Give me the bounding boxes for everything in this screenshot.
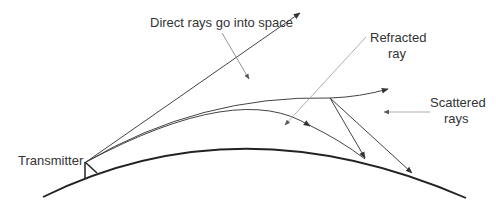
earth-surface <box>43 149 466 198</box>
refracted-label-line2: ray <box>388 46 407 61</box>
refracted-ray-upper <box>86 89 388 162</box>
scattered-label-line1: Scattered <box>430 95 486 110</box>
refracted-ray-lower <box>86 109 310 162</box>
scattered-ray-2 <box>330 98 412 173</box>
direct-ray <box>86 13 300 162</box>
transmitter-label: Transmitter <box>18 153 84 168</box>
refracted-pointer <box>285 37 366 125</box>
scattered-ray-1 <box>330 98 365 158</box>
scattered-label-line2: rays <box>444 111 469 126</box>
direct-pointer <box>222 33 249 79</box>
direct-label: Direct rays go into space <box>150 15 293 30</box>
refracted-label-line1: Refracted <box>370 30 426 45</box>
propagation-diagram: Direct rays go into space Refracted ray … <box>0 0 496 212</box>
